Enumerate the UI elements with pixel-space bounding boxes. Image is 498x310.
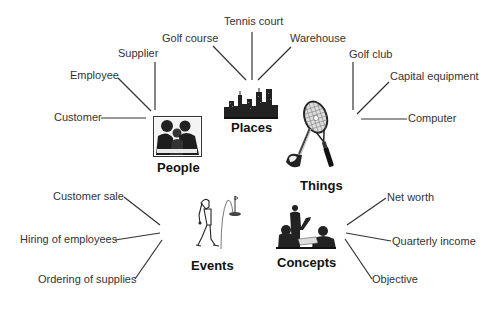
label-hiring-of-employees: Hiring of employees [20,233,117,245]
line-concepts-net-worth [347,198,386,225]
meeting-people-photo-icon [153,116,202,157]
line-places-golf-course [213,46,246,80]
label-quarterly-income: Quarterly income [392,235,476,247]
category-places: Places [231,120,272,135]
category-events: Events [191,258,234,273]
label-computer: Computer [408,112,456,124]
label-capital-equipment: Capital equipment [390,70,479,82]
line-people-employee [118,78,151,111]
label-golf-course: Golf course [162,32,218,44]
line-events-ordering [135,240,162,279]
label-objective: Objective [372,273,418,285]
label-customer-sale: Customer sale [53,190,124,202]
label-ordering-of-supplies: Ordering of supplies [38,273,136,285]
category-people: People [157,160,200,175]
label-golf-club: Golf club [349,48,392,60]
line-events-hiring [115,233,160,240]
line-things-capital-equipment [357,82,389,114]
presenter-audience-photo-icon [276,203,336,249]
golfer-putting-icon [193,193,248,251]
label-net-worth: Net worth [387,191,434,203]
line-concepts-objective [345,239,372,279]
connector-lines [0,0,498,310]
line-events-customer-sale [124,197,160,225]
city-skyline-icon [224,88,278,119]
category-things: Things [300,178,343,193]
label-employee: Employee [70,69,119,81]
line-concepts-quarterly-income [346,233,391,241]
label-warehouse: Warehouse [290,32,346,44]
tennis-racket-golf-club-icon [284,100,346,180]
line-places-warehouse [258,47,291,80]
category-concepts: Concepts [277,255,336,270]
label-tennis-court: Tennis court [224,15,283,27]
label-customer: Customer [54,111,102,123]
label-supplier: Supplier [118,47,158,59]
